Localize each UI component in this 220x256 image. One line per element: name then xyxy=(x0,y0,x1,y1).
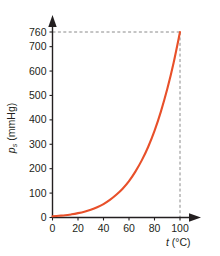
y-tick-label: 0 xyxy=(41,211,47,223)
x-tick-label: 40 xyxy=(98,222,110,234)
x-tick-label: 60 xyxy=(123,222,135,234)
x-tick-label: 80 xyxy=(149,222,161,234)
chart-canvas: 0100200300400500600700760 020406080100 p… xyxy=(0,0,220,256)
x-tick-label: 100 xyxy=(171,222,189,234)
y-tick-label: 600 xyxy=(29,65,47,77)
y-tick-label: 200 xyxy=(29,162,47,174)
y-tick-label: 700 xyxy=(29,40,47,52)
y-axis-units: (mmHg) xyxy=(5,103,17,144)
x-axis-title: t (°C) xyxy=(166,236,191,248)
y-tick-label: 400 xyxy=(29,113,47,125)
y-tick-label: 500 xyxy=(29,89,47,101)
y-tick-label: 760 xyxy=(29,26,47,38)
y-tick-label: 100 xyxy=(29,187,47,199)
vapour-pressure-chart: 0100200300400500600700760 020406080100 p… xyxy=(0,0,220,256)
x-axis-units: (°C) xyxy=(169,236,191,248)
x-tick-label: 20 xyxy=(72,222,84,234)
y-tick-label: 300 xyxy=(29,138,47,150)
x-tick-label: 0 xyxy=(50,222,56,234)
svg-text:t (°C): t (°C) xyxy=(166,236,191,248)
